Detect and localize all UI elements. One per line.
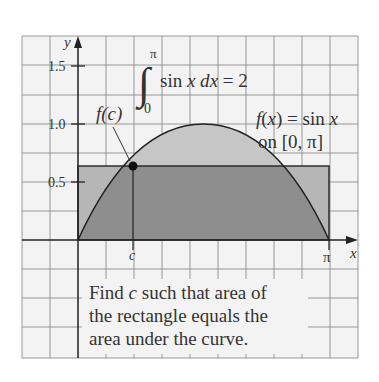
- y-axis-label: y: [62, 34, 71, 50]
- caption-line2: the rectangle equals the: [89, 305, 268, 326]
- mean-value-theorem-figure: 1.5 1.0 0.5 y x c π f(c) ∫ π 0 sin x dx …: [0, 0, 379, 382]
- function-label-line2: on [0, π]: [258, 131, 323, 152]
- x-axis-label: x: [349, 245, 357, 261]
- y-tick-label-1-0: 1.0: [48, 117, 66, 132]
- point-c: [129, 162, 138, 171]
- c-tick-label: c: [129, 248, 136, 263]
- caption-line3: area under the curve.: [89, 328, 248, 349]
- integral-upper-limit: π: [150, 46, 157, 61]
- integral-lower-limit: 0: [144, 101, 151, 116]
- integral-expression: sin x dx = 2: [160, 70, 248, 91]
- pi-tick-label: π: [323, 249, 331, 265]
- f-c-label: f(c): [96, 103, 122, 125]
- y-tick-label-0-5: 0.5: [48, 175, 66, 190]
- function-label-line1: f(x) = sin x: [256, 108, 339, 130]
- caption-line1: Find c such that area of: [89, 282, 267, 303]
- y-tick-label-1-5: 1.5: [48, 59, 66, 74]
